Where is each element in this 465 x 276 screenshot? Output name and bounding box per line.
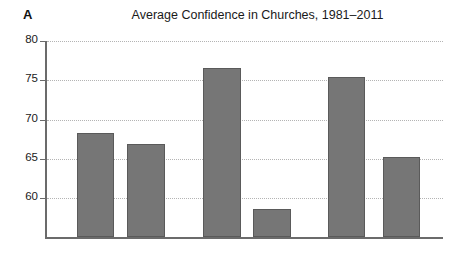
panel-label: A: [23, 7, 33, 22]
y-tick-label-80: 80: [12, 34, 38, 46]
y-tick-mark-75: [40, 80, 46, 81]
gridline-70: [47, 120, 443, 121]
bar-italy[interactable]: [127, 144, 165, 237]
bar-canada[interactable]: [383, 157, 420, 237]
gridline-80: [47, 41, 443, 42]
chart-title: Average Confidence in Churches, 1981–201…: [60, 8, 455, 22]
bar-ireland[interactable]: [77, 133, 114, 237]
bar-croatia[interactable]: [253, 209, 291, 238]
y-tick-mark-80: [40, 41, 46, 42]
y-tick-mark-65: [40, 159, 46, 160]
y-tick-label-65: 65: [12, 152, 38, 164]
y-axis-line: [45, 41, 47, 238]
gridline-75: [47, 80, 443, 81]
y-tick-mark-60: [40, 198, 46, 199]
y-axis-tick-labels: 80 75 70 65 60: [8, 38, 38, 238]
bar-poland[interactable]: [203, 68, 241, 237]
bar-us[interactable]: [328, 77, 365, 237]
y-tick-label-60: 60: [12, 191, 38, 203]
plot-area: Ireland Italy Poland Croatia US Canada: [45, 38, 445, 238]
chart-figure: A Average Confidence in Churches, 1981–2…: [0, 0, 465, 276]
y-tick-mark-70: [40, 120, 46, 121]
y-tick-label-70: 70: [12, 113, 38, 125]
y-tick-label-75: 75: [12, 73, 38, 85]
x-axis-line: [45, 237, 443, 239]
